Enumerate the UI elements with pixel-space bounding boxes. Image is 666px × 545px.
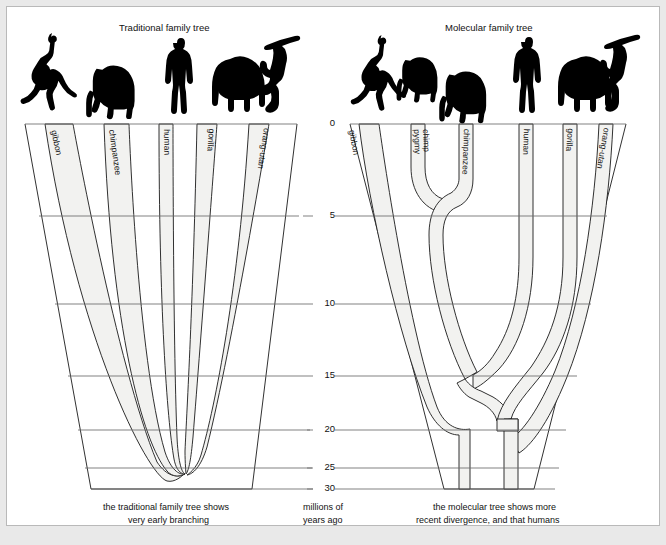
ytick-label-30: 30 <box>313 482 335 493</box>
chimpanzee-silhouette <box>86 65 134 119</box>
right-silhouette-row <box>351 35 640 124</box>
figure-panel: Traditional family tree Molecular family… <box>6 6 660 526</box>
branch-label-chimp: chimp <box>421 129 432 152</box>
ytick-label-0: 0 <box>313 117 335 128</box>
axis-caption-line2: years ago <box>303 514 343 526</box>
ytick-label-10: 10 <box>313 297 335 308</box>
left-silhouette-row <box>21 33 301 119</box>
human-silhouette <box>165 38 193 114</box>
ytick-label-5: 5 <box>313 209 335 220</box>
ytick-label-15: 15 <box>313 369 335 380</box>
pygmy-chimp-silhouette <box>397 57 438 102</box>
branch-label-gorilla: gorilla <box>564 128 576 151</box>
human-silhouette <box>513 37 541 113</box>
left-tree-group <box>25 124 297 489</box>
chimpanzee-silhouette <box>439 71 486 123</box>
ytick-label-25: 25 <box>313 461 335 472</box>
family-tree-diagram <box>7 7 660 526</box>
ytick-label-20: 20 <box>313 423 335 434</box>
gibbon-silhouette <box>21 33 78 110</box>
right-tree-group <box>350 124 626 489</box>
branch-label-gorilla: gorilla <box>205 128 217 151</box>
branch-label-human: human <box>162 129 172 155</box>
tick-marks <box>303 216 345 489</box>
right-band-greatape-stem <box>497 419 518 431</box>
right-caption-line1: the molecular tree shows more <box>433 501 556 514</box>
left-caption-line2: very early branching <box>128 514 209 526</box>
left-band-human <box>159 124 185 474</box>
gorilla-silhouette <box>212 56 265 112</box>
right-band-human <box>473 124 533 389</box>
orangutan-silhouette <box>597 35 640 112</box>
branch-label-human: human <box>521 129 532 155</box>
axis-caption-line1: millions of <box>303 501 343 514</box>
right-caption-line2: recent divergence, and that humans <box>416 514 560 526</box>
left-caption-line1: the traditional family tree shows <box>103 501 229 514</box>
branch-label-chimpanzee: chimpanzee <box>460 129 472 175</box>
